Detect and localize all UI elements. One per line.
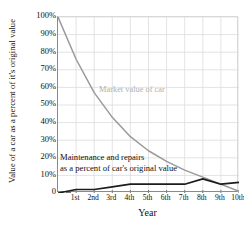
- x-tick-label: 7th: [179, 194, 189, 202]
- y-tick-label: 20%: [14, 152, 56, 161]
- y-tick-label: 100%: [14, 11, 56, 20]
- series-line-maintenance: [58, 179, 239, 193]
- x-tick-label: 1st: [71, 194, 80, 202]
- x-tick-label: 3rd: [106, 194, 116, 202]
- chart-figure: Value of a car as a percent of it's orig…: [0, 0, 244, 225]
- y-tick-label: 50%: [14, 99, 56, 108]
- x-tick-label: 6th: [161, 194, 171, 202]
- x-tick-label: 9th: [215, 194, 225, 202]
- y-tick-label: 90%: [14, 29, 56, 38]
- x-axis-tick-labels: 1st2nd3rd4th5th6th7th8th9th10th: [57, 194, 238, 206]
- series-line-market-value: [58, 17, 239, 191]
- x-tick-label: 8th: [197, 194, 207, 202]
- data-lines: [58, 17, 239, 193]
- y-tick-label: 60%: [14, 82, 56, 91]
- y-tick-label: 80%: [14, 47, 56, 56]
- x-tick-label: 10th: [231, 194, 244, 202]
- y-tick-label: 0: [14, 187, 56, 196]
- y-tick-label: 30%: [14, 135, 56, 144]
- x-tick-label: 5th: [143, 194, 153, 202]
- x-tick-label: 4th: [125, 194, 135, 202]
- x-tick-label: 2nd: [87, 194, 98, 202]
- y-tick-label: 10%: [14, 170, 56, 179]
- x-axis-title: Year: [57, 207, 238, 218]
- plot-area: [57, 16, 238, 192]
- y-tick-label: 40%: [14, 117, 56, 126]
- y-axis-tick-labels: 010%20%30%40%50%60%70%80%90%100%: [14, 0, 56, 225]
- y-tick-label: 70%: [14, 64, 56, 73]
